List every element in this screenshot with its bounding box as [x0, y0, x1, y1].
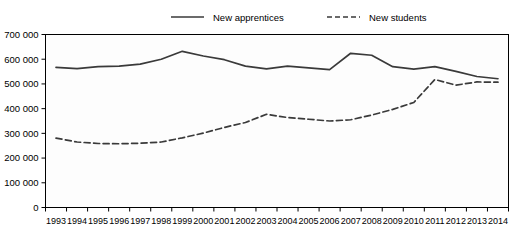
x-axis-tick-label: 2001 — [214, 216, 234, 226]
x-axis-tick-label: 2010 — [404, 216, 424, 226]
y-axis-tick-label: 700 000 — [4, 29, 38, 40]
x-axis-tick-label: 1998 — [151, 216, 171, 226]
y-axis-tick-label: 400 000 — [4, 103, 38, 114]
x-axis-tick-label: 2007 — [341, 216, 361, 226]
y-axis-tick-label: 100 000 — [4, 177, 38, 188]
x-axis-tick-label: 1996 — [109, 216, 129, 226]
x-axis-tick-label: 2013 — [467, 216, 487, 226]
x-axis-tick-label: 2005 — [299, 216, 319, 226]
y-axis-tick-label: 0 — [33, 202, 38, 213]
x-axis-tick-label: 2000 — [193, 216, 213, 226]
x-axis-tick-label: 2008 — [362, 216, 382, 226]
y-axis-tick-label: 600 000 — [4, 54, 38, 65]
x-axis-tick-label: 2011 — [425, 216, 444, 226]
plot-area — [46, 35, 509, 208]
x-axis-tick-label: 2003 — [256, 216, 276, 226]
x-axis-tick-label: 2009 — [383, 216, 403, 226]
x-axis-tick-label: 2004 — [278, 216, 298, 226]
x-axis: 1993199419951996199719981999200020012002… — [46, 208, 509, 226]
chart-figure: New apprenticesNew students 0100 000200 … — [0, 0, 517, 237]
x-axis-tick-label: 2012 — [446, 216, 466, 226]
x-axis-tick-label: 2006 — [320, 216, 340, 226]
y-axis-tick-label: 500 000 — [4, 78, 38, 89]
y-axis-tick-label: 300 000 — [4, 128, 38, 139]
line-chart: New apprenticesNew students 0100 000200 … — [0, 0, 517, 237]
y-axis: 0100 000200 000300 000400 000500 000600 … — [4, 29, 45, 213]
x-axis-tick-label: 1997 — [130, 216, 150, 226]
x-axis-tick-label: 1993 — [46, 216, 66, 226]
legend-label-2: New students — [369, 12, 427, 23]
y-axis-tick-label: 200 000 — [4, 152, 38, 163]
chart-legend: New apprenticesNew students — [171, 12, 427, 23]
x-axis-tick-label: 1999 — [172, 216, 192, 226]
legend-label-1: New apprentices — [213, 12, 284, 23]
x-axis-tick-label: 1995 — [88, 216, 108, 226]
x-axis-tick-label: 2014 — [488, 216, 508, 226]
x-axis-tick-label: 2002 — [235, 216, 255, 226]
x-axis-tick-label: 1994 — [67, 216, 87, 226]
